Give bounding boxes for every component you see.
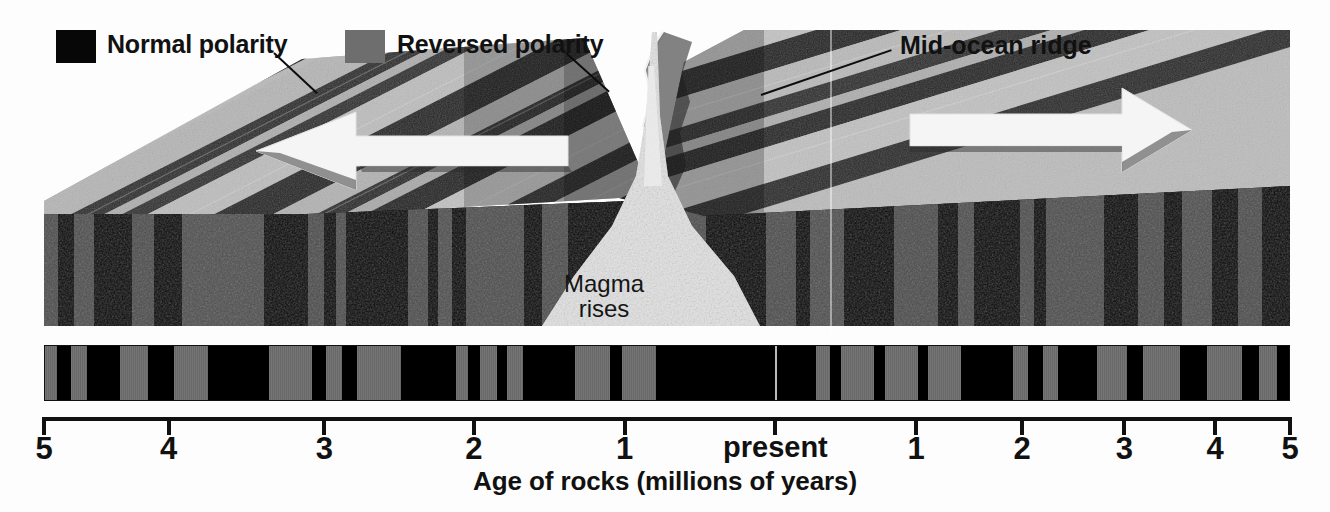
age-axis: 54321present12345 (44, 401, 1290, 461)
polarity-stripe (523, 346, 575, 400)
axis-label-right-1: 1 (908, 431, 925, 467)
axis-label-left-4: 4 (160, 431, 177, 467)
axis-label-left-2: 2 (465, 431, 482, 467)
polarity-stripe (1043, 346, 1058, 400)
polarity-stripe (480, 346, 496, 400)
scan-seam (830, 26, 832, 336)
polarity-stripe (1277, 346, 1289, 400)
polarity-stripe (312, 346, 326, 400)
reversed-polarity-swatch (345, 30, 385, 63)
axis-label-left-3: 3 (316, 431, 333, 467)
axis-label-left-1: 1 (616, 431, 633, 467)
polarity-stripe (1242, 346, 1259, 400)
polarity-stripe (918, 346, 928, 400)
polarity-stripe (326, 346, 342, 400)
magma-rises-label: Magma rises (564, 271, 644, 322)
polarity-stripe (830, 346, 841, 400)
polarity-stripe (874, 346, 885, 400)
reversed-polarity-label: Reversed polarity (397, 30, 603, 59)
mid-ocean-ridge-label: Mid-ocean ridge (900, 31, 1092, 60)
polarity-stripe (1058, 346, 1098, 400)
polarity-stripe (120, 346, 149, 400)
polarity-stripe (1028, 346, 1043, 400)
polarity-stripe (656, 346, 775, 400)
axis-label-present: present (723, 431, 828, 464)
axis-label-right-4: 4 (1207, 431, 1224, 467)
polarity-stripe (961, 346, 1013, 400)
polarity-stripe (401, 346, 456, 400)
polarity-stripe (45, 346, 57, 400)
polarity-stripe (1013, 346, 1028, 400)
polarity-stripe (1127, 346, 1143, 400)
normal-polarity-swatch (56, 30, 96, 63)
polarity-stripe (468, 346, 480, 400)
polarity-stripe (1097, 346, 1127, 400)
polarity-stripe (775, 346, 816, 400)
polarity-stripe (1143, 346, 1179, 400)
present-day-seam (775, 346, 777, 400)
polarity-stripe (208, 346, 269, 400)
magma-label-line1: Magma (564, 270, 644, 297)
polarity-stripe (357, 346, 401, 400)
axis-caption: Age of rocks (millions of years) (0, 466, 1330, 497)
seafloor-block-diagram (44, 26, 1290, 336)
polarity-stripe (1180, 346, 1207, 400)
polarity-stripe (174, 346, 208, 400)
polarity-stripe (816, 346, 830, 400)
polarity-stripe (610, 346, 622, 400)
polarity-stripe (841, 346, 873, 400)
polarity-stripe (87, 346, 119, 400)
polarity-stripe (57, 346, 71, 400)
axis-line (44, 417, 1290, 421)
polarity-stripe (342, 346, 357, 400)
figure-root: Magma rises Normal polarity Reversed pol… (0, 0, 1330, 512)
axis-label-left-5: 5 (35, 431, 52, 467)
polarity-stripe (1207, 346, 1242, 400)
polarity-stripe (456, 346, 468, 400)
polarity-stripe (928, 346, 960, 400)
magma-label-line2: rises (579, 295, 630, 322)
polarity-stripe (269, 346, 313, 400)
polarity-stripe (497, 346, 507, 400)
polarity-stripe (1259, 346, 1276, 400)
polarity-stripe (71, 346, 87, 400)
block-svg (44, 26, 1290, 336)
normal-polarity-label: Normal polarity (107, 30, 287, 59)
axis-label-right-5: 5 (1281, 431, 1298, 467)
axis-label-right-3: 3 (1116, 431, 1133, 467)
polarity-stripe (148, 346, 174, 400)
magnetic-anomaly-stripe-bar (44, 345, 1290, 401)
polarity-stripe (885, 346, 919, 400)
polarity-stripe (622, 346, 656, 400)
polarity-stripe (575, 346, 610, 400)
polarity-stripe (507, 346, 523, 400)
axis-label-right-2: 2 (1013, 431, 1030, 467)
